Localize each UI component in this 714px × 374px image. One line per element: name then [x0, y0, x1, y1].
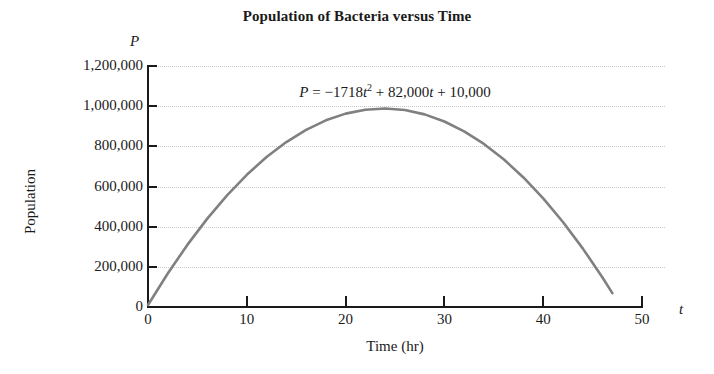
- equation-c-coefficient: 10,000: [449, 84, 490, 100]
- y-axis-tick-label: 800,000: [48, 138, 143, 153]
- y-axis-symbol: P: [130, 33, 139, 50]
- y-axis-tick: [148, 145, 157, 147]
- y-axis-tick: [148, 65, 157, 67]
- y-axis-tick: [148, 226, 157, 228]
- x-axis-symbol: t: [679, 301, 683, 318]
- equation-var-2: t: [429, 84, 433, 100]
- equation-plus-1: +: [376, 84, 384, 100]
- equation-equals: =: [312, 84, 320, 100]
- equation-b-coefficient: 82,000: [388, 84, 429, 100]
- y-axis-tick: [148, 105, 157, 107]
- y-axis-tick-label: 200,000: [48, 259, 143, 274]
- equation-a-coefficient: 1718: [333, 84, 363, 100]
- x-axis-title: Time (hr): [148, 338, 642, 355]
- gridline: [148, 187, 665, 189]
- y-axis-tick-label: 600,000: [48, 179, 143, 194]
- gridline: [148, 106, 665, 108]
- x-axis-tick-label: 50: [612, 311, 672, 328]
- equation-exponent: 2: [367, 82, 372, 93]
- gridline: [148, 227, 665, 229]
- y-axis-line: [147, 65, 149, 308]
- y-axis-tick-label: 400,000: [48, 219, 143, 234]
- equation-annotation: P = −1718t2 + 82,000t + 10,000: [148, 82, 642, 101]
- y-axis-tick-label: 1,200,000: [48, 58, 143, 73]
- x-axis-tick-label: 0: [118, 311, 178, 328]
- x-axis-line: [147, 306, 643, 308]
- gridline: [148, 146, 665, 148]
- y-axis-tick-label: 1,000,000: [48, 98, 143, 113]
- y-axis-tick: [148, 186, 157, 188]
- gridline: [148, 66, 665, 68]
- x-axis-tick-label: 20: [316, 311, 376, 328]
- x-axis-tick-label: 40: [513, 311, 573, 328]
- chart-title: Population of Bacteria versus Time: [0, 8, 714, 25]
- gridline: [148, 267, 665, 269]
- equation-lhs: P: [299, 84, 308, 100]
- y-axis-title: Population: [22, 142, 39, 262]
- bacteria-population-chart: Population of Bacteria versus Time P t P…: [0, 0, 714, 374]
- y-axis-tick: [148, 266, 157, 268]
- equation-minus: −: [324, 84, 332, 100]
- equation-plus-2: +: [437, 84, 445, 100]
- x-axis-tick-label: 30: [414, 311, 474, 328]
- x-axis-tick-label: 10: [217, 311, 277, 328]
- parabola-curve: [148, 108, 612, 305]
